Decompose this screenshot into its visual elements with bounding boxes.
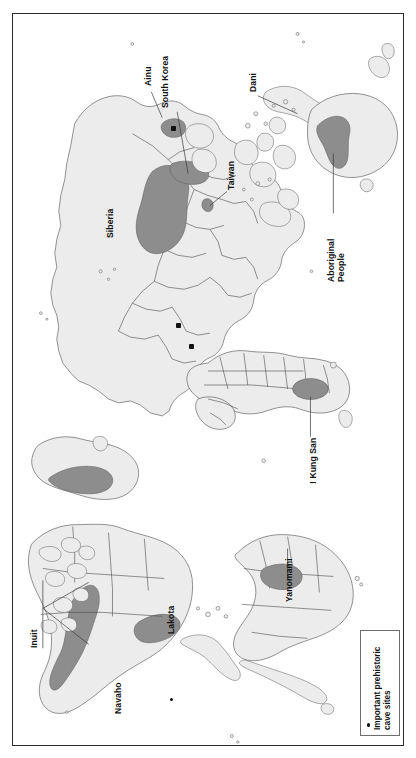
label-yanomami: Yanomami [285,558,294,602]
cave-site-marker-east-asia [171,126,176,131]
landmass-greenland [32,436,139,499]
label-south-korea: South Korea [161,56,170,108]
legend-bullet-icon [367,723,371,727]
map-figure: .land{fill:#ececec;stroke:#5a5a5a;stroke… [0,0,416,758]
label-siberia: Siberia [106,209,115,238]
label-taiwan: Taiwan [227,161,236,190]
label-aboriginal-line2: People [337,239,347,283]
legend-line-2: cave sites [382,647,392,730]
label-ainu: Ainu [144,67,153,87]
legend-label: Important prehistoric cave sites [372,647,393,730]
map-canvas: .land{fill:#ececec;stroke:#5a5a5a;stroke… [13,14,403,745]
landmass-central-america [181,606,241,680]
label-inuit: Inuit [30,629,39,648]
cave-site-marker-europe-north [176,323,181,328]
landmass-australia [307,43,397,191]
legend-line-1: Important prehistoric [372,647,382,730]
label-dani: Dani [249,73,258,92]
map-legend: Important prehistoric cave sites [360,630,400,736]
label-aboriginal-people: Aboriginal People [327,239,346,283]
landmass-south-america [233,535,362,715]
cave-site-marker-europe-south [189,344,194,349]
region-taiwan-highlight [202,199,213,212]
region-kung-san-highlight [293,379,329,400]
figure-border-frame: .land{fill:#ececec;stroke:#5a5a5a;stroke… [12,13,404,746]
label-kung-san: ! Kung San [309,438,318,484]
label-lakota: Lakota [167,606,176,634]
landmass-africa [187,351,352,430]
world-map-graphic: .land{fill:#ececec;stroke:#5a5a5a;stroke… [13,14,403,745]
label-navaho: Navaho [114,682,123,714]
